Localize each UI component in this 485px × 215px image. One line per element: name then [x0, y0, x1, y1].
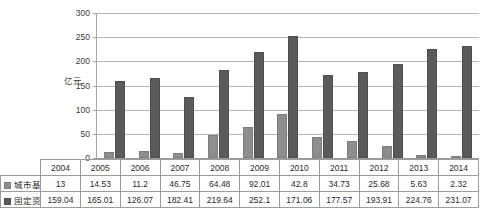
table-value-2012-series-0: 25.68: [359, 176, 399, 192]
bar-2014-series-1: [462, 46, 472, 158]
bar-2012-series-1: [393, 64, 403, 158]
data-table-body: 2004200520062007200820092010201120122013…: [1, 160, 479, 208]
bar-2011-series-1: [358, 72, 368, 158]
legend-swatch-icon-series-0: [4, 182, 11, 189]
bar-2010-series-1: [323, 75, 333, 158]
table-value-2005-series-0: 14.53: [80, 176, 120, 192]
bar-2008-series-0: [243, 127, 253, 158]
y-tick-label-100: 100: [52, 105, 90, 114]
y-tick-label-200: 200: [52, 57, 90, 66]
bar-2012-series-0: [382, 146, 392, 158]
bar-2004-series-1: [115, 81, 125, 158]
table-value-2014-series-0: 2.32: [439, 176, 479, 192]
table-value-2011-series-0: 34.73: [319, 176, 359, 192]
bar-2009-series-1: [288, 36, 298, 158]
y-tick-label-50: 50: [52, 130, 90, 139]
y-tick-label-150: 150: [52, 81, 90, 90]
table-value-2007-series-0: 46.75: [160, 176, 200, 192]
table-year-2004: 2004: [41, 160, 81, 176]
legend-item-series-0[interactable]: 城市基础设施投资额: [1, 176, 41, 192]
table-year-2009: 2009: [240, 160, 280, 176]
bar-2013-series-1: [427, 49, 437, 158]
bar-group-2014: [444, 13, 479, 158]
legend-label-series-0: 城市基础设施投资额: [14, 180, 41, 190]
table-value-2009-series-1: 252.1: [240, 192, 280, 208]
table-value-2014-series-1: 231.07: [439, 192, 479, 208]
table-value-2005-series-1: 165.01: [80, 192, 120, 208]
table-value-2004-series-1: 159.04: [41, 192, 81, 208]
y-tick-label-300: 300: [52, 9, 90, 18]
bar-group-2010: [305, 13, 340, 158]
plot-area: [96, 13, 479, 158]
bar-group-2007: [201, 13, 236, 158]
table-row-series-0: 城市基础设施投资额1314.5311.246.7564.4892.0142.83…: [1, 176, 479, 192]
bars-layer: [97, 13, 479, 158]
bar-group-2004: [97, 13, 132, 158]
table-row-series-1: 固定资产投资额159.04165.01126.07182.41219.64252…: [1, 192, 479, 208]
table-year-2005: 2005: [80, 160, 120, 176]
bar-2013-series-0: [416, 155, 426, 158]
data-table: 2004200520062007200820092010201120122013…: [0, 159, 479, 208]
bar-group-2013: [410, 13, 445, 158]
bar-group-2009: [271, 13, 306, 158]
table-year-2011: 2011: [319, 160, 359, 176]
table-value-2008-series-0: 64.48: [200, 176, 240, 192]
table-value-2006-series-0: 11.2: [120, 176, 160, 192]
table-year-2013: 2013: [399, 160, 439, 176]
table-value-2010-series-1: 171.06: [279, 192, 319, 208]
bar-group-2008: [236, 13, 271, 158]
bar-2005-series-0: [139, 151, 149, 158]
table-value-2006-series-1: 126.07: [120, 192, 160, 208]
table-value-2009-series-0: 92.01: [240, 176, 280, 192]
table-value-2011-series-1: 177.57: [319, 192, 359, 208]
y-axis-tick-labels: 300250200150100500: [52, 8, 90, 159]
table-year-2006: 2006: [120, 160, 160, 176]
bar-2010-series-0: [312, 137, 322, 158]
bar-group-2006: [166, 13, 201, 158]
bar-2006-series-1: [184, 97, 194, 158]
table-value-2012-series-1: 193.91: [359, 192, 399, 208]
bar-2009-series-0: [277, 114, 287, 158]
table-value-2008-series-1: 219.64: [200, 192, 240, 208]
bar-2006-series-0: [173, 153, 183, 158]
bar-2011-series-0: [347, 141, 357, 158]
table-row-years: 2004200520062007200820092010201120122013…: [1, 160, 479, 176]
table-year-2014: 2014: [439, 160, 479, 176]
legend-label-series-1: 固定资产投资额: [14, 196, 41, 206]
table-corner-cell: [1, 160, 41, 176]
table-year-2010: 2010: [279, 160, 319, 176]
bar-2014-series-0: [451, 156, 461, 158]
table-value-2007-series-1: 182.41: [160, 192, 200, 208]
table-year-2008: 2008: [200, 160, 240, 176]
table-year-2012: 2012: [359, 160, 399, 176]
bar-2007-series-0: [208, 135, 218, 158]
legend-item-series-1[interactable]: 固定资产投资额: [1, 192, 41, 208]
table-value-2013-series-1: 224.76: [399, 192, 439, 208]
plot-region: 亿元 300250200150100500: [0, 0, 485, 159]
bar-2005-series-1: [150, 78, 160, 158]
table-value-2013-series-0: 5.63: [399, 176, 439, 192]
legend-swatch-icon-series-1: [4, 198, 11, 205]
bar-2004-series-0: [104, 152, 114, 158]
bar-2008-series-1: [254, 52, 264, 158]
bar-chart-figure: 亿元 300250200150100500 200420052006200720…: [0, 0, 485, 215]
bar-group-2011: [340, 13, 375, 158]
y-tick-label-250: 250: [52, 33, 90, 42]
table-year-2007: 2007: [160, 160, 200, 176]
bar-group-2012: [375, 13, 410, 158]
bar-2007-series-1: [219, 70, 229, 158]
table-value-2010-series-0: 42.8: [279, 176, 319, 192]
table-value-2004-series-0: 13: [41, 176, 81, 192]
bar-group-2005: [132, 13, 167, 158]
